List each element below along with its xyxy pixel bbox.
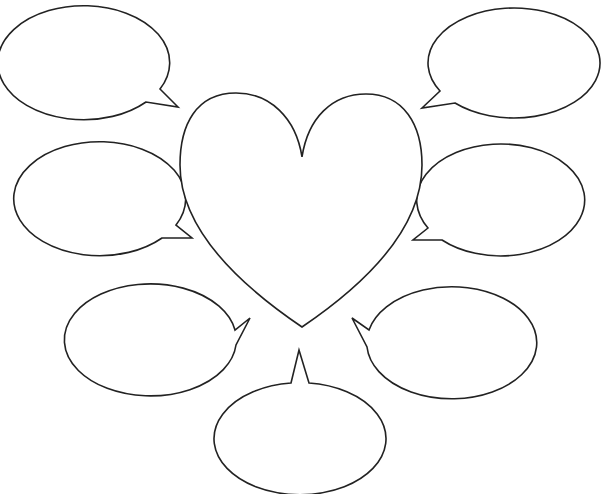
speech-bubble-middle-left	[14, 142, 192, 256]
speech-bubble-top-left	[0, 6, 178, 120]
speech-bubble-bottom-left	[64, 284, 250, 396]
speech-bubble-middle-right	[413, 144, 585, 256]
speech-bubble-bottom-center	[214, 350, 386, 494]
heart-shape	[180, 93, 422, 327]
speech-bubble-bottom-right	[352, 287, 537, 399]
speech-bubble-top-right	[422, 8, 600, 118]
heart-bubble-diagram	[0, 0, 601, 494]
